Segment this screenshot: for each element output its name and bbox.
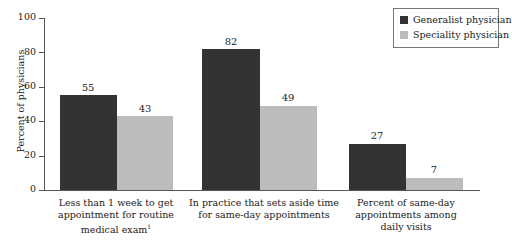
bar-speciality-3	[406, 178, 463, 190]
y-tick	[39, 87, 44, 88]
y-tick-label: 100	[6, 11, 36, 22]
y-tick	[39, 18, 44, 19]
bar-generalist-1	[60, 95, 117, 190]
legend-item-speciality: Speciality physician	[400, 29, 509, 40]
legend-item-generalist: Generalist physician	[400, 14, 512, 25]
x-axis	[44, 190, 480, 191]
bar-speciality-2	[260, 106, 317, 190]
y-tick-label: 0	[6, 183, 36, 194]
value-label: 27	[349, 130, 405, 141]
bar-generalist-2	[202, 49, 260, 190]
legend-swatch-speciality	[400, 31, 408, 39]
value-label: 49	[260, 92, 316, 103]
legend-swatch-generalist	[400, 16, 408, 24]
y-tick	[39, 52, 44, 53]
category-label-2: In practice that sets aside time for sam…	[184, 197, 344, 221]
value-label: 7	[406, 164, 462, 175]
y-tick	[39, 121, 44, 122]
value-label: 55	[60, 82, 116, 93]
legend: Generalist physician Speciality physicia…	[393, 8, 499, 48]
bar-speciality-1	[117, 116, 173, 190]
y-axis	[44, 18, 45, 190]
category-label-3: Percent of same-day appointments among d…	[331, 197, 481, 233]
value-label: 82	[203, 36, 259, 47]
category-label-1: Less than 1 week to get appointment for …	[41, 197, 191, 236]
y-tick	[39, 190, 44, 191]
bar-generalist-3	[349, 144, 406, 190]
value-label: 43	[117, 103, 173, 114]
y-tick	[39, 156, 44, 157]
y-axis-label: Percent of physicians	[15, 53, 26, 153]
